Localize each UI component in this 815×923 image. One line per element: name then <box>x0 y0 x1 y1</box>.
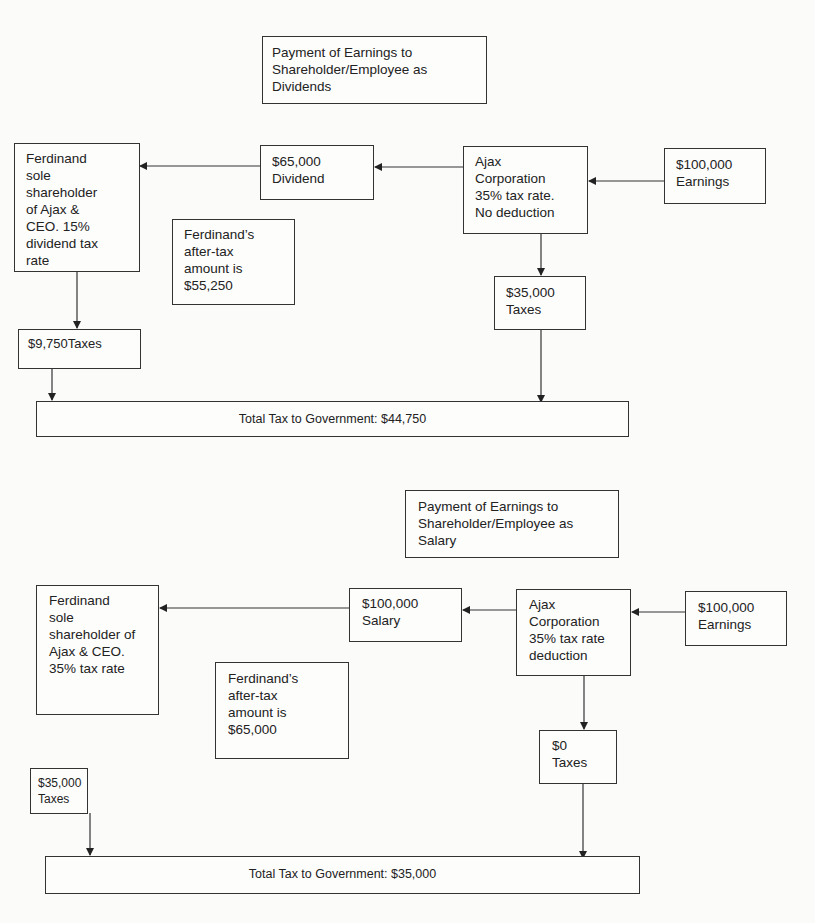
dividends-total-tax-box: Total Tax to Government: $44,750 <box>36 401 629 437</box>
salary-earnings-box: $100,000 Earnings <box>685 591 787 646</box>
salary-after-tax-box: Ferdinand’s after-tax amount is $65,000 <box>215 662 349 759</box>
dividends-shareholder-box: Ferdinand sole shareholder of Ajax & CEO… <box>14 143 140 272</box>
dividends-corporate-taxes-box: $35,000 Taxes <box>494 276 586 330</box>
dividends-corporation-box: Ajax Corporation 35% tax rate. No deduct… <box>463 146 588 234</box>
dividends-after-tax-box: Ferdinand’s after-tax amount is $55,250 <box>172 219 295 305</box>
salary-corporate-taxes-box: $0 Taxes <box>539 730 617 784</box>
dividends-personal-taxes-box: $9,750Taxes <box>18 329 141 369</box>
dividends-earnings-box: $100,000 Earnings <box>664 148 766 204</box>
dividends-title-box: Payment of Earnings to Shareholder/Emplo… <box>262 36 487 104</box>
salary-payment-box: $100,000 Salary <box>349 588 462 642</box>
salary-personal-taxes-box: $35,000 Taxes <box>30 768 88 814</box>
tax-comparison-diagram: Payment of Earnings to Shareholder/Emplo… <box>0 0 815 923</box>
dividend-payment-box: $65,000 Dividend <box>260 145 374 200</box>
salary-shareholder-box: Ferdinand sole shareholder of Ajax & CEO… <box>36 585 159 715</box>
salary-corporation-box: Ajax Corporation 35% tax rate deduction <box>516 589 631 676</box>
salary-title-box: Payment of Earnings to Shareholder/Emplo… <box>405 490 619 558</box>
salary-total-tax-box: Total Tax to Government: $35,000 <box>45 856 640 894</box>
connector-arrows <box>0 0 815 923</box>
